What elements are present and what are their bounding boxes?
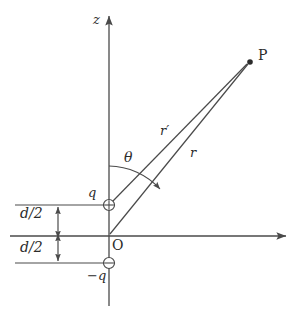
origin-label: O xyxy=(112,238,123,252)
theta-label: θ xyxy=(124,150,132,164)
field-point-label: P xyxy=(258,48,267,62)
positive-charge-symbol xyxy=(104,200,115,211)
field-point-dot xyxy=(247,59,253,65)
dimension-label-lower: d/2 xyxy=(20,240,43,254)
negative-charge-symbol xyxy=(104,258,115,269)
negative-charge-label: −q xyxy=(87,269,106,282)
dimension-label-upper: d/2 xyxy=(20,206,43,220)
z-axis-label: z xyxy=(93,13,100,26)
r-label: r xyxy=(190,146,196,159)
positive-charge-label: q xyxy=(88,186,96,199)
r-prime-label: r′ xyxy=(160,124,169,137)
r-prime-line xyxy=(112,64,247,202)
dipole-diagram: z P O θ r′ r q −q d/2 d/2 xyxy=(0,0,303,324)
theta-arc xyxy=(109,166,160,189)
